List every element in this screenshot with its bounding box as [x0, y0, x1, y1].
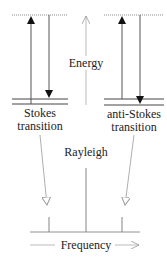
- spectrum: Rayleigh: [30, 145, 140, 232]
- stokes-label-line2: transition: [17, 119, 62, 133]
- frequency-label: Frequency: [61, 238, 112, 252]
- raman-energy-diagram: Stokes transition Energy anti-Stokes tra…: [0, 0, 167, 269]
- anti-stokes-to-spectrum-arrow: [125, 135, 134, 205]
- stokes-to-spectrum-arrow: [40, 135, 47, 205]
- energy-axis: Energy: [69, 16, 103, 105]
- stokes-group: Stokes transition: [12, 15, 68, 133]
- energy-label: Energy: [69, 56, 103, 70]
- anti-stokes-label-line1: anti-Stokes: [107, 107, 161, 121]
- anti-stokes-label-line2: transition: [111, 120, 156, 134]
- frequency-axis: Frequency: [30, 238, 139, 252]
- rayleigh-label: Rayleigh: [64, 145, 107, 159]
- anti-stokes-group: anti-Stokes transition: [104, 15, 164, 134]
- stokes-label-line1: Stokes: [24, 106, 56, 120]
